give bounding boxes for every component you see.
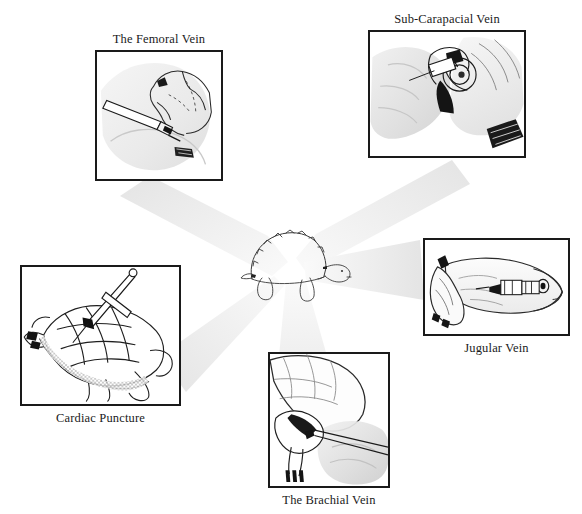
panel-femoral: The Femoral Vein bbox=[95, 50, 223, 181]
panel-sub-carapacial: Sub-Carapacial Vein bbox=[368, 30, 526, 158]
cardiac-puncture-illustration bbox=[22, 267, 179, 404]
panel-label-sub-carapacial: Sub-Carapacial Vein bbox=[394, 13, 500, 26]
panel-label-femoral: The Femoral Vein bbox=[113, 33, 205, 46]
panel-jugular: Jugular Vein bbox=[423, 238, 570, 336]
center-tortoise bbox=[238, 222, 354, 302]
panel-brachial: The Brachial Vein bbox=[268, 352, 390, 488]
brachial-vein-illustration bbox=[270, 354, 388, 486]
venipuncture-sites-figure: The Femoral Vein bbox=[0, 0, 582, 514]
panel-cardiac: Cardiac Puncture bbox=[20, 265, 181, 406]
panel-label-brachial: The Brachial Vein bbox=[282, 494, 375, 507]
panel-frame-jugular bbox=[423, 238, 570, 336]
panel-frame-femoral bbox=[95, 50, 223, 181]
panel-frame-cardiac bbox=[20, 265, 181, 406]
panel-frame-brachial bbox=[268, 352, 390, 488]
panel-label-jugular: Jugular Vein bbox=[464, 342, 528, 355]
jugular-vein-illustration bbox=[425, 240, 568, 334]
sub-carapacial-vein-illustration bbox=[370, 32, 524, 156]
femoral-vein-illustration bbox=[97, 52, 221, 179]
panel-frame-sub-carapacial bbox=[368, 30, 526, 158]
panel-label-cardiac: Cardiac Puncture bbox=[56, 412, 145, 425]
